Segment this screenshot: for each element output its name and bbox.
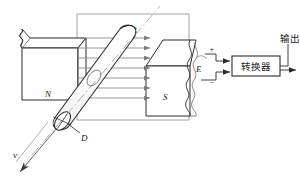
figure-canvas: N S B xyxy=(0,0,300,181)
south-pole-magnet: S xyxy=(146,40,198,116)
signal-wiring xyxy=(201,54,230,80)
velocity-label: v xyxy=(13,150,17,160)
converter-block[interactable]: 转换器 xyxy=(232,56,280,76)
south-pole-label: S xyxy=(163,92,168,102)
output-line xyxy=(280,44,296,70)
diameter-label: D xyxy=(80,133,88,143)
diameter-callout: D xyxy=(68,124,88,143)
output-label: 输出 xyxy=(280,33,300,44)
converter-label: 转换器 xyxy=(241,61,271,72)
negative-terminal-label: − xyxy=(209,78,214,87)
velocity-arrow: v xyxy=(13,122,57,172)
positive-terminal-label: + xyxy=(209,45,214,54)
north-pole-label: N xyxy=(44,89,52,99)
flowmeter-diagram-svg: N S B xyxy=(0,0,300,181)
electrode-callout: E xyxy=(195,56,207,74)
electrode-label: E xyxy=(195,64,202,74)
